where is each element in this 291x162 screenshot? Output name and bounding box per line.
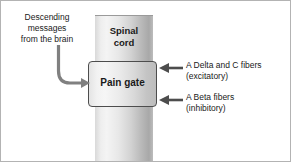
descending-messages-arrow — [59, 45, 91, 88]
arrow-layer — [1, 1, 291, 162]
excitatory-arrow — [159, 63, 183, 73]
pain-gate-diagram: Spinal cord Pain gate Descending message… — [0, 0, 291, 162]
inhibitory-arrow — [159, 95, 183, 105]
